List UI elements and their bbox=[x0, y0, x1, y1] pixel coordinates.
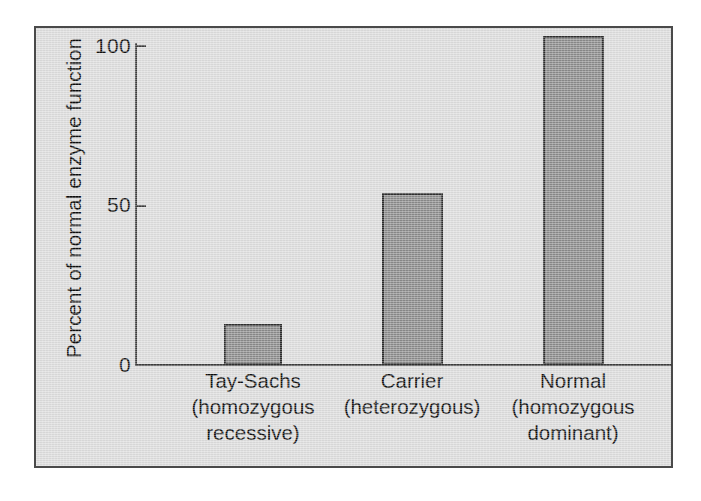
y-tick-label-100: 100 bbox=[95, 35, 131, 56]
y-axis-title: Percent of normal enzyme function bbox=[62, 58, 86, 358]
bar-carrier[interactable] bbox=[382, 193, 443, 365]
category-label-line: (homozygous bbox=[468, 394, 678, 420]
bar-tay-sachs[interactable] bbox=[224, 324, 282, 365]
category-label-line: recessive) bbox=[148, 420, 358, 446]
x-axis-category-labels: Tay-Sachs (homozygous recessive) Carrier… bbox=[137, 368, 674, 468]
figure-frame: 100 50 0 Percent of normal enzyme functi… bbox=[34, 26, 673, 468]
category-label-line: Normal bbox=[468, 368, 678, 394]
category-label-normal: Normal (homozygous dominant) bbox=[468, 368, 678, 445]
y-tick-label-0: 0 bbox=[119, 354, 131, 375]
y-tick-label-50: 50 bbox=[107, 194, 131, 215]
bar-normal[interactable] bbox=[543, 36, 604, 365]
category-label-line: dominant) bbox=[468, 420, 678, 446]
bars-layer bbox=[137, 28, 674, 365]
